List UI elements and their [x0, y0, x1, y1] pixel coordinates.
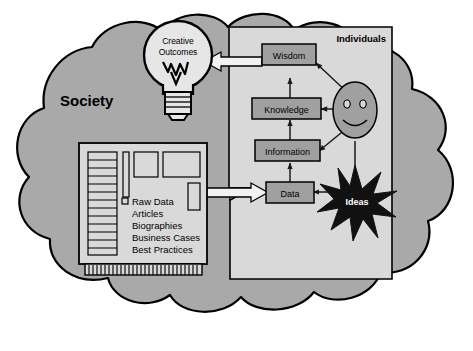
card-stripes [88, 152, 117, 255]
creative-outcomes-line1: Creative [162, 36, 194, 46]
source-list-item-2: Biographies [132, 220, 182, 231]
smiley-face-icon [333, 82, 377, 138]
source-list-item-3: Business Cases [132, 232, 200, 243]
box-information-label: Information [265, 147, 310, 157]
card-bullet [122, 198, 128, 204]
card-rect-right [188, 183, 200, 210]
source-list-item-4: Best Practices [132, 244, 193, 255]
box-information[interactable]: Information [255, 140, 320, 161]
source-list-item-1: Articles [132, 208, 163, 219]
card-rect-small [134, 152, 158, 177]
box-wisdom[interactable]: Wisdom [262, 44, 316, 65]
knowledge-hierarchy-diagram: Society Individuals [0, 0, 473, 351]
ideas-label: Ideas [345, 197, 368, 207]
box-data-label: Data [280, 189, 299, 199]
diagram-canvas: Society Individuals [0, 0, 473, 351]
box-knowledge[interactable]: Knowledge [252, 98, 321, 119]
creative-outcomes-line2: Outcomes [159, 47, 198, 57]
box-knowledge-label: Knowledge [264, 105, 309, 115]
box-data[interactable]: Data [266, 182, 314, 203]
punch-card-icon: Raw Data Articles Biographies Business C… [79, 143, 207, 275]
individuals-label: Individuals [336, 33, 386, 44]
box-wisdom-label: Wisdom [273, 51, 306, 61]
card-bar [123, 152, 129, 197]
card-rect-large [163, 152, 200, 177]
society-label: Society [60, 92, 114, 109]
card-connector-pins [85, 264, 202, 275]
source-list-item-0: Raw Data [132, 196, 174, 207]
